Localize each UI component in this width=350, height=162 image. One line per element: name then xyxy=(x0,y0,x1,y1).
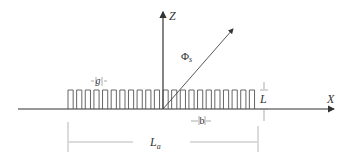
grating-pulse xyxy=(241,90,246,109)
grating-pulse xyxy=(172,90,177,109)
z-axis-label: Z xyxy=(169,9,176,23)
grating-pulse xyxy=(94,90,99,109)
grating-pulse xyxy=(215,90,220,109)
width-label: b xyxy=(200,115,205,126)
grating-pulse xyxy=(137,90,142,109)
grating-pulse xyxy=(223,90,228,109)
grating-pulse xyxy=(232,90,237,109)
length-dimension xyxy=(68,122,258,152)
grating-pulse xyxy=(103,90,108,109)
grating-pulse xyxy=(111,90,116,109)
incidence-arrow xyxy=(163,29,233,109)
angle-label: Φs xyxy=(181,50,192,64)
grating-pulse xyxy=(154,90,159,109)
grating-pulse xyxy=(206,90,211,109)
grating-pulse xyxy=(77,90,82,109)
grating-pulse xyxy=(146,90,151,109)
grating-pulse xyxy=(189,90,194,109)
x-axis-label: X xyxy=(326,92,335,106)
height-label: L xyxy=(259,92,267,106)
grating-pulse xyxy=(68,90,73,109)
grating-pulses xyxy=(68,90,255,109)
diagram-svg: X Z Φs g b L xyxy=(0,0,350,162)
grating-pulse xyxy=(198,90,203,109)
grating-pulse xyxy=(85,90,90,109)
length-label: La xyxy=(149,135,161,151)
grating-pulse xyxy=(180,90,185,109)
gap-label: g xyxy=(96,75,101,86)
grating-pulse xyxy=(249,90,254,109)
grating-pulse xyxy=(128,90,133,109)
grating-diagram: X Z Φs g b L xyxy=(0,0,350,162)
grating-pulse xyxy=(120,90,125,109)
